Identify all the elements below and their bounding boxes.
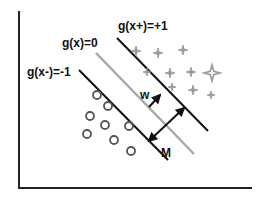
negative-point — [101, 121, 109, 129]
positive-point — [165, 68, 175, 78]
negative-point — [93, 91, 101, 99]
negative-point — [83, 130, 91, 138]
positive-point — [207, 91, 215, 99]
positive-point — [168, 83, 176, 91]
negative-point — [86, 112, 94, 120]
positive-point — [153, 48, 163, 58]
weight-vector-label: w — [139, 88, 150, 102]
margin-label: M — [161, 146, 171, 160]
positive-margin-line — [117, 38, 208, 131]
positive-point — [188, 85, 198, 95]
decision-boundary-label: g(x)=0 — [62, 36, 98, 50]
negative-margin-label: g(x-)=-1 — [27, 65, 71, 79]
positive-margin-label: g(x+)=+1 — [118, 19, 168, 33]
negative-point — [127, 147, 135, 155]
weight-vector-arrow — [149, 95, 160, 107]
positive-point — [204, 65, 220, 81]
svm-diagram: g(x+)=+1 g(x)=0 g(x-)=-1 w M — [0, 0, 264, 198]
negative-point — [104, 102, 112, 110]
positive-point — [186, 67, 196, 77]
positive-point — [143, 68, 151, 76]
negative-point — [125, 122, 133, 130]
negative-point — [110, 136, 118, 144]
positive-point — [178, 45, 188, 55]
